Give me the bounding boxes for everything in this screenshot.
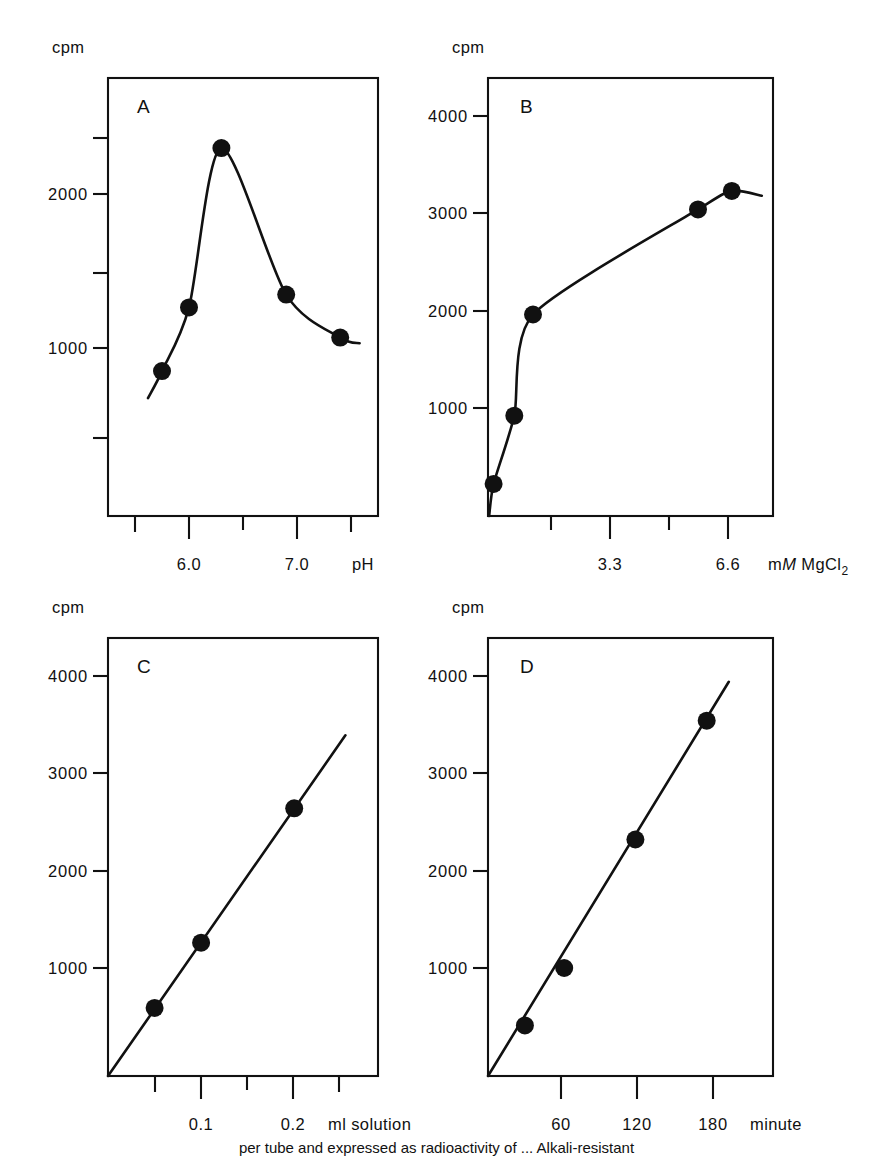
panel-c-ytick-1000: 1000 <box>48 959 88 977</box>
panel-a-ytick-2000: 2000 <box>48 185 88 203</box>
panel-a-data-points <box>153 139 349 380</box>
data-point <box>723 182 741 200</box>
chart-panel-b: cpm 4000 3000 2000 1000 3.3 6.6 mM MgCl2 <box>420 0 873 580</box>
data-point <box>285 799 303 817</box>
data-point <box>689 200 707 218</box>
figure-four-panel-chart: cpm 2000 1000 6.0 7.0 pH A <box>0 0 873 1158</box>
data-point <box>192 934 210 952</box>
panel-a-y-ticks <box>93 138 108 438</box>
panel-d-ytick-1000: 1000 <box>428 959 468 977</box>
data-point <box>698 712 716 730</box>
panel-b-curve <box>489 191 762 516</box>
data-point <box>626 831 644 849</box>
panel-d-xtick-180: 180 <box>698 1115 727 1133</box>
figure-caption-fragment: per tube and expressed as radioactivity … <box>0 1138 873 1158</box>
panel-d-letter: D <box>520 656 534 677</box>
panel-c-x-ticks <box>155 1076 339 1099</box>
panel-a-x-ticks <box>135 516 351 539</box>
panel-d-x-ticks <box>561 1076 713 1099</box>
data-point <box>277 286 295 304</box>
panel-d-y-unit: cpm <box>452 598 484 616</box>
data-point <box>485 475 503 493</box>
panel-d-y-ticks <box>473 676 488 968</box>
data-point <box>331 329 349 347</box>
panel-a-curve <box>148 148 360 398</box>
panel-d-ytick-4000: 4000 <box>428 667 468 685</box>
data-point <box>212 139 230 157</box>
panel-b-y-unit: cpm <box>452 38 484 56</box>
panel-d-x-unit: minute <box>750 1115 802 1133</box>
panel-c-x-unit: ml solution <box>328 1115 411 1133</box>
panel-b-ytick-2000: 2000 <box>428 302 468 320</box>
data-point <box>516 1016 534 1034</box>
panel-b-ytick-4000: 4000 <box>428 107 468 125</box>
data-point <box>555 959 573 977</box>
panel-c-xtick-0-1: 0.1 <box>189 1115 214 1133</box>
panel-a-letter: A <box>137 96 150 117</box>
panel-b-letter: B <box>520 96 533 117</box>
panel-b-frame <box>488 78 773 516</box>
panel-c-ytick-3000: 3000 <box>48 764 88 782</box>
panel-b-ytick-1000: 1000 <box>428 399 468 417</box>
panel-b-y-ticks <box>473 116 488 408</box>
data-point <box>524 306 542 324</box>
panel-c-fit-line <box>108 735 345 1076</box>
panel-c-ytick-4000: 4000 <box>48 667 88 685</box>
panel-c-letter: C <box>137 656 151 677</box>
panel-d-data-points <box>516 712 716 1035</box>
panel-a-y-unit: cpm <box>52 38 84 56</box>
panel-c-ytick-2000: 2000 <box>48 862 88 880</box>
chart-panel-c: cpm 4000 3000 2000 1000 0.1 0.2 ml solu <box>0 560 437 1140</box>
panel-c-xtick-0-2: 0.2 <box>281 1115 306 1133</box>
panel-d-frame <box>488 638 773 1076</box>
chart-panel-d: cpm 4000 3000 2000 1000 60 120 180 minut… <box>420 560 873 1140</box>
panel-d-xtick-60: 60 <box>551 1115 571 1133</box>
panel-d-ytick-2000: 2000 <box>428 862 468 880</box>
panel-c-y-unit: cpm <box>52 598 84 616</box>
panel-b-ytick-3000: 3000 <box>428 204 468 222</box>
panel-a-frame <box>108 78 378 516</box>
data-point <box>505 407 523 425</box>
data-point <box>153 362 171 380</box>
panel-c-y-ticks <box>93 676 108 968</box>
data-point <box>146 999 164 1017</box>
chart-panel-a: cpm 2000 1000 6.0 7.0 pH A <box>0 0 437 580</box>
data-point <box>180 298 198 316</box>
panel-d-ytick-3000: 3000 <box>428 764 468 782</box>
panel-b-x-ticks <box>551 516 728 539</box>
panel-d-xtick-120: 120 <box>622 1115 651 1133</box>
panel-a-ytick-1000: 1000 <box>48 339 88 357</box>
